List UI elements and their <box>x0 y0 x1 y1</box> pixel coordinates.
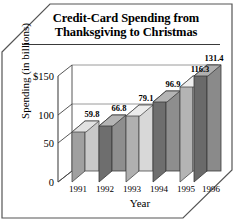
bar-value-1994: 96.9 <box>166 79 181 89</box>
y-tick-label-50: 50 <box>44 138 55 149</box>
x-tick-label-1994: 1994 <box>150 184 169 194</box>
axis-depth-leaders <box>58 65 72 182</box>
x-tick-label-1995: 1995 <box>177 184 196 194</box>
bar-value-1991: 59.8 <box>85 109 100 119</box>
x-tick-label-1991: 1991 <box>69 184 87 194</box>
bar-value-1993: 79.1 <box>139 93 154 103</box>
y-tick-label-0: 0 <box>49 177 54 188</box>
y-tick-label-150: $150 <box>33 71 54 82</box>
floor-edge <box>58 171 72 182</box>
chart-figure: Credit-Card Spending from Thanksgiving t… <box>0 0 235 222</box>
y-tick-label-100: 100 <box>38 110 54 121</box>
bar-1991 <box>72 121 99 182</box>
bar-value-1996: 131.4 <box>204 53 224 63</box>
plot-area: $150 100 50 0 <box>0 0 235 222</box>
bar-1993 <box>126 105 153 182</box>
bar-1992 <box>99 115 126 182</box>
bar-1996 <box>194 65 221 182</box>
bar-value-1992: 66.8 <box>112 103 127 113</box>
x-axis-title: Year <box>130 197 151 209</box>
x-tick-label-1996: 1996 <box>202 184 221 194</box>
bar-1994 <box>153 91 180 182</box>
x-tick-label-1992: 1992 <box>96 184 114 194</box>
x-tick-label-1993: 1993 <box>123 184 142 194</box>
bar-value-1995: 116.3 <box>191 64 210 74</box>
